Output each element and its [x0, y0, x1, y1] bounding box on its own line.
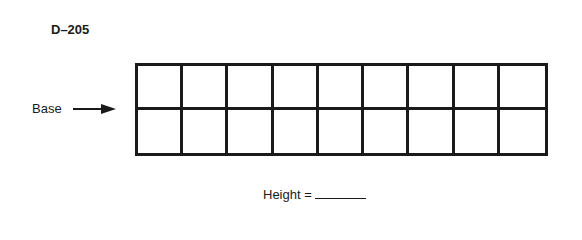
grid-cell [500, 110, 545, 154]
grid-cell [319, 66, 364, 110]
right-arrow-icon [73, 103, 117, 115]
height-answer-blank[interactable] [315, 185, 366, 199]
grid-cell [183, 110, 228, 154]
grid-cell [138, 110, 183, 154]
grid-cell [455, 66, 500, 110]
grid-cell [364, 110, 409, 154]
grid-cell [274, 66, 319, 110]
grid-cell [274, 110, 319, 154]
height-answer-row: Height = [263, 185, 366, 202]
problem-id: D–205 [51, 22, 89, 37]
grid-cell [364, 66, 409, 110]
height-label: Height = [263, 187, 312, 202]
grid-cell [319, 110, 364, 154]
grid-cell [500, 66, 545, 110]
grid-cell [409, 66, 454, 110]
rectangle-grid [135, 63, 548, 156]
base-label: Base [32, 101, 62, 116]
grid-cell [455, 110, 500, 154]
grid-cell [228, 66, 273, 110]
grid-cell [409, 110, 454, 154]
grid-cell [183, 66, 228, 110]
grid-cell [138, 66, 183, 110]
grid-cell [228, 110, 273, 154]
